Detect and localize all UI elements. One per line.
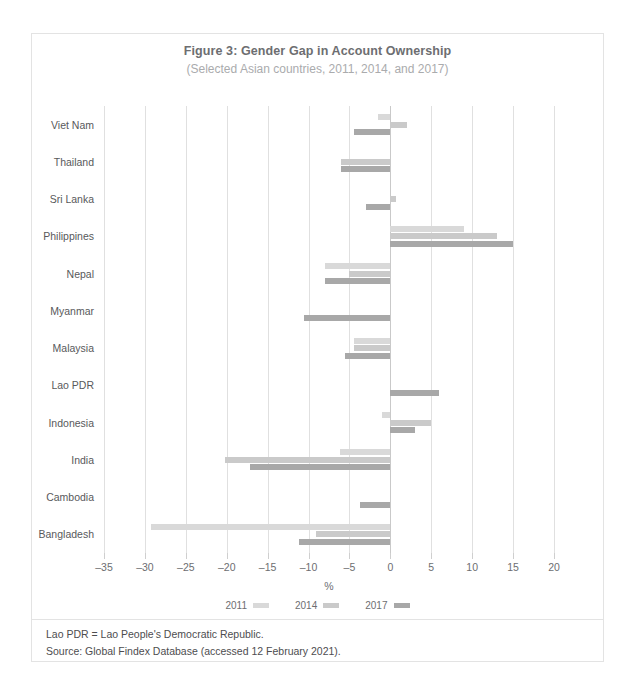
bar-2017 [360,502,390,508]
bar-2011 [354,338,391,344]
bar-2011 [340,449,390,455]
legend-swatch [253,603,269,608]
x-tick-mark [104,553,105,559]
category-label: Cambodia [46,491,94,503]
x-tick-mark [145,553,146,559]
x-tick-label: 5 [411,561,451,573]
bar-2014 [390,122,406,128]
x-tick-mark [268,553,269,559]
x-tick-label: 20 [534,561,574,573]
bar-2011 [382,412,390,418]
category-row: Thailand [104,143,554,180]
bar-2017 [354,129,391,135]
bar-2014 [349,271,390,277]
x-tick-mark [390,553,391,559]
x-tick-label: –20 [207,561,247,573]
x-tick-label: –10 [289,561,329,573]
bar-2017 [299,539,391,545]
figure-subtitle: (Selected Asian countries, 2011, 2014, a… [32,60,603,78]
legend-label: 2011 [225,600,247,611]
category-row: Myanmar [104,292,554,329]
bar-2014 [225,457,390,463]
legend-label: 2017 [365,600,387,611]
bar-2011 [378,114,390,120]
x-tick-label: –30 [125,561,165,573]
bar-2014 [316,531,390,537]
notes-separator [32,619,603,620]
bar-2014 [354,345,391,351]
x-tick-label: 15 [493,561,533,573]
bar-2017 [390,427,415,433]
x-axis-title: % [104,580,554,592]
bar-2017 [325,278,390,284]
x-tick-mark [227,553,228,559]
category-label: India [71,454,94,466]
note-abbreviation: Lao PDR = Lao People's Democratic Republ… [46,626,589,643]
category-label: Myanmar [50,305,94,317]
legend-swatch [394,603,410,608]
category-row: Cambodia [104,479,554,516]
x-tick-mark [349,553,350,559]
category-row: India [104,441,554,478]
bar-2017 [390,241,513,247]
x-tick-mark [554,553,555,559]
category-label: Sri Lanka [50,193,94,205]
x-tick-label: –25 [166,561,206,573]
bar-2017 [250,464,390,470]
chart-legend: 201120142017 [32,600,603,611]
category-label: Philippines [43,230,94,242]
bar-2011 [325,263,390,269]
category-label: Malaysia [53,342,94,354]
category-row: Bangladesh [104,516,554,553]
x-tick-mark [513,553,514,559]
bar-2017 [345,353,390,359]
title-block: Figure 3: Gender Gap in Account Ownershi… [32,42,603,78]
x-tick-mark [431,553,432,559]
bar-2014 [390,233,496,239]
figure-title: Figure 3: Gender Gap in Account Ownershi… [32,42,603,60]
category-row: Indonesia [104,404,554,441]
bar-2017 [366,204,391,210]
x-tick-label: –5 [329,561,369,573]
category-label: Lao PDR [51,379,94,391]
x-tick-label: –35 [84,561,124,573]
x-tick-mark [309,553,310,559]
legend-item-2017[interactable]: 2017 [365,600,409,611]
bar-2014 [390,420,431,426]
x-tick-label: 10 [452,561,492,573]
category-row: Viet Nam [104,106,554,143]
bar-2011 [390,226,464,232]
category-label: Nepal [67,268,94,280]
x-tick-mark [186,553,187,559]
x-tick-label: –15 [248,561,288,573]
bar-2014 [390,196,396,202]
category-row: Nepal [104,255,554,292]
category-row: Malaysia [104,330,554,367]
figure-notes: Lao PDR = Lao People's Democratic Republ… [46,626,589,660]
chart-plot-area: Viet NamThailandSri LankaPhilippinesNepa… [104,106,554,553]
category-label: Viet Nam [51,119,94,131]
x-tick-mark [472,553,473,559]
legend-item-2011[interactable]: 2011 [225,600,269,611]
legend-item-2014[interactable]: 2014 [295,600,339,611]
category-row: Philippines [104,218,554,255]
gridline [554,106,555,553]
bar-2014 [341,159,390,165]
note-source: Source: Global Findex Database (accessed… [46,643,589,660]
x-tick-label: 0 [370,561,410,573]
bar-2017 [390,390,439,396]
category-row: Sri Lanka [104,181,554,218]
category-label: Thailand [54,156,94,168]
bar-2017 [304,315,390,321]
legend-label: 2014 [295,600,317,611]
bar-2011 [151,524,390,530]
legend-swatch [323,603,339,608]
category-label: Bangladesh [39,528,94,540]
figure-card: Figure 3: Gender Gap in Account Ownershi… [31,33,604,662]
category-row: Lao PDR [104,367,554,404]
bar-2017 [341,166,390,172]
category-label: Indonesia [48,417,94,429]
